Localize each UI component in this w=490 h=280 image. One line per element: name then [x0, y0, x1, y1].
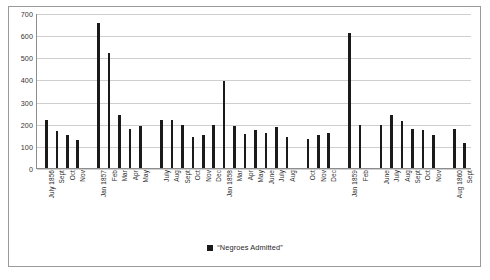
x-tick-label: Aug: [289, 170, 296, 182]
bar: [212, 125, 215, 168]
bar: [181, 125, 184, 168]
x-tick-label: Nov: [205, 170, 212, 182]
x-tick-label: Aug: [404, 170, 411, 182]
bar: [317, 135, 320, 168]
bar: [286, 137, 289, 168]
x-tick-label: Apr: [132, 170, 139, 180]
x-tick-label: Mar: [121, 170, 128, 181]
bar: [160, 120, 163, 168]
bar-series: [37, 14, 471, 168]
x-tick-label: July 1856: [48, 170, 55, 198]
bar: [223, 81, 226, 168]
bar: [233, 126, 236, 168]
chart-legend: “Negroes Admitted”: [0, 243, 490, 252]
bar: [453, 129, 456, 168]
bar: [307, 139, 310, 168]
bar: [97, 23, 100, 168]
bar: [401, 121, 404, 168]
bar: [56, 131, 59, 168]
x-tick-label: June: [383, 170, 390, 184]
x-tick-label: Dec: [330, 170, 337, 182]
plot-area: 0100200300400500600700: [36, 14, 471, 169]
x-tick-label: July: [163, 170, 170, 182]
bar: [380, 125, 383, 168]
x-tick-label: July: [393, 170, 400, 182]
x-tick-label: Oct: [194, 170, 201, 180]
legend-swatch: [207, 245, 213, 251]
bar: [76, 140, 79, 168]
x-tick-label: Feb: [362, 170, 369, 181]
x-tick-label: Oct: [69, 170, 76, 180]
bar: [327, 133, 330, 168]
bar: [129, 129, 132, 168]
x-tick-label: Sept: [466, 170, 473, 184]
legend-label: “Negroes Admitted”: [217, 243, 282, 252]
x-tick-label: June: [268, 170, 275, 184]
bar: [463, 143, 466, 168]
x-tick-label: Jan 1859: [351, 170, 358, 197]
bar: [422, 130, 425, 168]
y-tick-label: 100: [21, 142, 33, 151]
bar: [359, 125, 362, 168]
bar: [171, 120, 174, 168]
y-tick-label: 600: [21, 32, 33, 41]
x-tick-label: Sept: [184, 170, 191, 184]
bar: [244, 134, 247, 168]
bar: [118, 115, 121, 168]
x-tick-label: Jan 1857: [100, 170, 107, 197]
x-tick-label: Sept: [414, 170, 421, 184]
x-tick-label: Dec: [215, 170, 222, 182]
x-tick-label: Mar: [236, 170, 243, 181]
y-tick-label: 200: [21, 120, 33, 129]
x-tick-label: Feb: [111, 170, 118, 181]
bar: [192, 137, 195, 168]
x-tick-label: July: [278, 170, 285, 182]
y-tick-label: 500: [21, 54, 33, 63]
x-tick-label: Sept: [58, 170, 65, 184]
x-tick-label: Apr: [247, 170, 254, 180]
bar: [432, 135, 435, 168]
y-tick-label: 0: [29, 165, 33, 174]
bar: [265, 133, 268, 168]
x-tick-label: Aug 1860: [456, 170, 463, 198]
bar: [45, 120, 48, 168]
y-tick-label: 700: [21, 10, 33, 19]
bar: [275, 127, 278, 168]
bar: [139, 126, 142, 169]
x-tick-label: May: [142, 170, 149, 182]
bar: [108, 53, 111, 168]
x-tick-label: Nov: [435, 170, 442, 182]
bar: [390, 115, 393, 168]
x-axis-tick-labels: July 1856SeptOctNovJan 1857FebMarAprMayJ…: [36, 170, 471, 232]
x-tick-label: Aug: [173, 170, 180, 182]
bar: [254, 130, 257, 168]
x-tick-label: Oct: [309, 170, 316, 180]
y-tick-label: 300: [21, 98, 33, 107]
bar: [348, 33, 351, 169]
bar: [66, 135, 69, 168]
x-tick-label: Oct: [424, 170, 431, 180]
y-tick-label: 400: [21, 76, 33, 85]
bar: [202, 135, 205, 168]
x-tick-label: Nov: [320, 170, 327, 182]
x-tick-label: Jan 1858: [226, 170, 233, 197]
x-tick-label: Nov: [79, 170, 86, 182]
chart-figure: 0100200300400500600700 July 1856SeptOctN…: [0, 0, 490, 280]
bar: [411, 129, 414, 168]
x-tick-label: May: [257, 170, 264, 182]
